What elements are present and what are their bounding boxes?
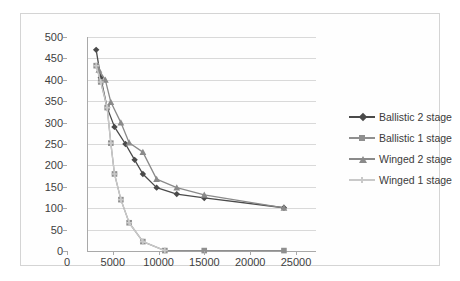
series-winged-1-stage — [93, 63, 168, 254]
data-point — [93, 47, 99, 53]
data-point — [111, 124, 117, 130]
x-tick-label-15000: 15000 — [182, 257, 226, 268]
legend-label: Winged 1 stage — [379, 174, 452, 186]
legend-key-triangle-icon — [349, 153, 375, 165]
y-tick-label-200: 200 — [21, 160, 63, 171]
x-tick-mark-25000 — [296, 251, 297, 255]
legend-marker-cross-vertical — [361, 177, 363, 183]
data-point — [281, 248, 287, 254]
legend-marker-diamond-icon — [359, 112, 367, 120]
y-tick-label-150: 150 — [21, 182, 63, 193]
y-tick-label-400: 400 — [21, 75, 63, 86]
legend-key-cross-icon — [349, 174, 375, 186]
data-point — [139, 149, 146, 155]
series-line — [96, 66, 284, 251]
x-tick-mark-0 — [67, 251, 68, 255]
y-tick-mark-200 — [63, 165, 67, 166]
data-point — [117, 119, 124, 125]
series-line — [99, 70, 284, 208]
y-tick-label-450: 450 — [21, 53, 63, 64]
y-tick-label-0: 0 — [21, 246, 63, 257]
legend-marker-square-icon — [359, 135, 365, 141]
x-tick-label-25000: 25000 — [274, 257, 318, 268]
y-tick-mark-400 — [63, 80, 67, 81]
chart-frame: 050100150200250300350400450500 050001000… — [20, 13, 440, 266]
legend-item-ballistic-1-stage[interactable]: Ballistic 1 stage — [349, 127, 457, 148]
x-tick-label-20000: 20000 — [228, 257, 272, 268]
legend-item-winged-2-stage[interactable]: Winged 2 stage — [349, 148, 457, 169]
y-tick-mark-350 — [63, 101, 67, 102]
legend-marker-triangle-icon — [359, 156, 367, 163]
legend-key-diamond-icon — [349, 111, 375, 123]
y-tick-label-250: 250 — [21, 139, 63, 150]
y-tick-mark-50 — [63, 230, 67, 231]
y-tick-label-500: 500 — [21, 32, 63, 43]
y-tick-label-50: 50 — [21, 225, 63, 236]
legend-label: Winged 2 stage — [379, 153, 452, 165]
y-tick-label-300: 300 — [21, 118, 63, 129]
series-line — [96, 50, 284, 208]
x-tick-mark-15000 — [204, 251, 205, 255]
data-point — [174, 191, 180, 197]
legend-item-winged-1-stage[interactable]: Winged 1 stage — [349, 169, 457, 190]
y-tick-mark-450 — [63, 58, 67, 59]
series-layer — [87, 37, 316, 252]
x-tick-label-10000: 10000 — [137, 257, 181, 268]
plot-area — [87, 37, 316, 251]
legend-label: Ballistic 1 stage — [379, 132, 452, 144]
series-ballistic-1-stage — [93, 63, 286, 253]
y-tick-mark-500 — [63, 37, 67, 38]
legend-label: Ballistic 2 stage — [379, 111, 452, 123]
x-tick-mark-20000 — [250, 251, 251, 255]
series-ballistic-2-stage — [93, 47, 287, 211]
y-tick-label-100: 100 — [21, 203, 63, 214]
chart-legend: Ballistic 2 stageBallistic 1 stageWinged… — [349, 106, 457, 190]
data-point — [153, 176, 160, 182]
data-point — [107, 99, 114, 105]
y-tick-mark-150 — [63, 187, 67, 188]
x-tick-label-5000: 5000 — [91, 257, 135, 268]
legend-marker-cross-icon — [359, 179, 365, 181]
series-winged-2-stage — [96, 67, 288, 211]
legend-key-square-icon — [349, 132, 375, 144]
x-tick-mark-10000 — [159, 251, 160, 255]
data-point — [131, 157, 137, 163]
y-tick-mark-100 — [63, 208, 67, 209]
data-point — [173, 184, 180, 190]
x-tick-mark-5000 — [113, 251, 114, 255]
legend-item-ballistic-2-stage[interactable]: Ballistic 2 stage — [349, 106, 457, 127]
y-tick-mark-300 — [63, 123, 67, 124]
x-tick-label-0: 0 — [45, 257, 89, 268]
y-tick-mark-250 — [63, 144, 67, 145]
y-tick-label-350: 350 — [21, 96, 63, 107]
